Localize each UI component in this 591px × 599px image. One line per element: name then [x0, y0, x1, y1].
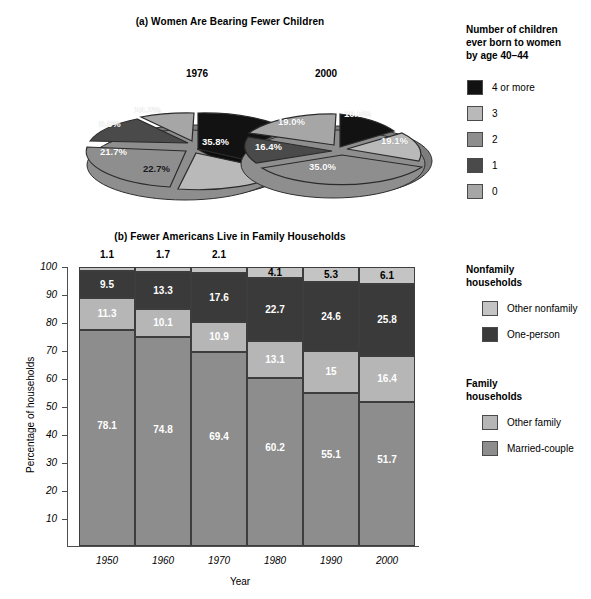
bar-legend-swatch-other-family: [482, 415, 498, 430]
bar-1960-value-other-family: 10.1: [153, 318, 172, 328]
bar-1950-value-other-nonfamily: 1.1: [79, 250, 135, 260]
y-tick-label-10: 10: [31, 513, 57, 524]
bar-1980-seg-other-nonfamily: 4.1: [247, 267, 303, 278]
bar-chart: 100 90 80 70 60 50 40 30 20 10 Percentag…: [0, 0, 591, 599]
bar-1950-seg-one-person: 9.5: [79, 271, 135, 298]
bar-1990-seg-one-person: 24.6: [303, 282, 359, 351]
x-axis-line: [67, 546, 419, 547]
x-tick-label-1980: 1980: [247, 555, 303, 566]
bar-2000[interactable]: 6.1 25.8 16.4 51.7: [359, 267, 415, 546]
bar-1980-seg-one-person: 22.7: [247, 278, 303, 341]
bar-1990-seg-other-nonfamily: 5.3: [303, 267, 359, 282]
bar-1960-seg-other-family: 10.1: [135, 309, 191, 337]
bar-1990-value-other-family: 15: [325, 367, 336, 377]
bar-1970-seg-married-couple: 69.4: [191, 352, 247, 546]
bar-1970-value-other-nonfamily: 2.1: [191, 250, 247, 260]
bar-1950-seg-married-couple: 78.1: [79, 330, 135, 546]
bar-1950-value-other-family: 11.3: [98, 309, 117, 319]
y-tick-30: [62, 463, 67, 464]
y-tick-label-90: 90: [31, 289, 57, 300]
y-tick-90: [62, 295, 67, 296]
bar-1990-value-married-couple: 55.1: [321, 450, 340, 460]
bar-2000-value-married-couple: 51.7: [377, 455, 396, 465]
bar-legend-label-married-couple: Married-couple: [507, 443, 574, 454]
y-tick-label-70: 70: [31, 345, 57, 356]
bar-legend-nonfamily-heading: Nonfamily households: [466, 263, 586, 289]
bar-legend-label-one-person: One-person: [507, 329, 560, 340]
bar-legend-swatch-one-person: [482, 327, 498, 342]
bar-1980-value-other-family: 13.1: [265, 355, 284, 365]
y-axis-label: Percentage of households: [25, 357, 36, 473]
bar-1980-seg-other-family: 13.1: [247, 341, 303, 378]
bar-1980-value-other-nonfamily: 4.1: [268, 268, 282, 278]
bar-legend-item-other-family[interactable]: Other family: [482, 415, 561, 430]
bar-1960-seg-married-couple: 74.8: [135, 337, 191, 546]
bar-1980-value-married-couple: 60.2: [265, 443, 284, 453]
y-tick-10: [62, 519, 67, 520]
bar-1970-value-married-couple: 69.4: [209, 432, 228, 442]
bar-1990-seg-other-family: 15: [303, 351, 359, 393]
bar-1970-seg-other-family: 10.9: [191, 322, 247, 352]
y-tick-label-100: 100: [31, 261, 57, 272]
bar-1960-value-one-person: 13.3: [153, 286, 172, 296]
bar-legend-item-married-couple[interactable]: Married-couple: [482, 441, 574, 456]
x-tick-label-1990: 1990: [303, 555, 359, 566]
x-tick-label-1960: 1960: [135, 555, 191, 566]
bar-legend-label-other-family: Other family: [507, 417, 561, 428]
bar-2000-seg-other-family: 16.4: [359, 356, 415, 402]
y-tick-label-80: 80: [31, 317, 57, 328]
bar-1960-value-married-couple: 74.8: [153, 425, 172, 435]
bar-1970-value-one-person: 17.6: [209, 293, 228, 303]
y-tick-50: [62, 407, 67, 408]
bar-legend-item-other-nonfamily[interactable]: Other nonfamily: [482, 301, 578, 316]
bar-2000-seg-one-person: 25.8: [359, 284, 415, 356]
x-tick-label-1970: 1970: [191, 555, 247, 566]
bar-1960[interactable]: 13.3 10.1 74.8: [135, 267, 191, 546]
bar-1950-value-married-couple: 78.1: [97, 421, 116, 431]
y-tick-80: [62, 323, 67, 324]
bar-2000-value-other-nonfamily: 6.1: [380, 271, 394, 281]
x-tick-label-2000: 2000: [359, 555, 415, 566]
x-tick-label-1950: 1950: [79, 555, 135, 566]
bar-1980-value-one-person: 22.7: [265, 305, 284, 315]
bar-1950[interactable]: 9.5 11.3 78.1: [79, 267, 135, 546]
bar-legend-label-other-nonfamily: Other nonfamily: [507, 303, 578, 314]
bar-1990-seg-married-couple: 55.1: [303, 393, 359, 546]
y-tick-60: [62, 379, 67, 380]
bar-1990[interactable]: 5.3 24.6 15 55.1: [303, 267, 359, 546]
y-tick-70: [62, 351, 67, 352]
bar-2000-value-other-family: 16.4: [377, 374, 396, 384]
y-tick-40: [62, 435, 67, 436]
bar-1990-value-one-person: 24.6: [321, 312, 340, 322]
bar-1990-value-other-nonfamily: 5.3: [324, 270, 338, 280]
figure-canvas: (a) Women Are Bearing Fewer Children 197…: [0, 0, 591, 599]
bar-1960-value-other-nonfamily: 1.7: [135, 250, 191, 260]
bar-2000-seg-other-nonfamily: 6.1: [359, 267, 415, 284]
bar-1970[interactable]: 17.6 10.9 69.4: [191, 267, 247, 546]
y-tick-20: [62, 491, 67, 492]
bar-1950-value-one-person: 9.5: [100, 280, 114, 290]
bar-legend-swatch-other-nonfamily: [482, 301, 498, 316]
y-axis-line: [67, 267, 68, 547]
y-tick-label-20: 20: [31, 485, 57, 496]
bar-legend-swatch-married-couple: [482, 441, 498, 456]
bar-1970-value-other-family: 10.9: [209, 332, 228, 342]
bar-1970-seg-one-person: 17.6: [191, 273, 247, 322]
bar-1960-seg-one-person: 13.3: [135, 272, 191, 309]
x-axis-label: Year: [190, 576, 290, 587]
bar-legend-family-heading: Family households: [466, 377, 586, 403]
bar-2000-seg-married-couple: 51.7: [359, 402, 415, 546]
y-tick-100: [62, 267, 67, 268]
bar-1980-seg-married-couple: 60.2: [247, 378, 303, 546]
bar-1950-seg-other-family: 11.3: [79, 298, 135, 330]
bar-2000-value-one-person: 25.8: [377, 315, 396, 325]
bar-1980[interactable]: 4.1 22.7 13.1 60.2: [247, 267, 303, 546]
bar-legend-item-one-person[interactable]: One-person: [482, 327, 560, 342]
